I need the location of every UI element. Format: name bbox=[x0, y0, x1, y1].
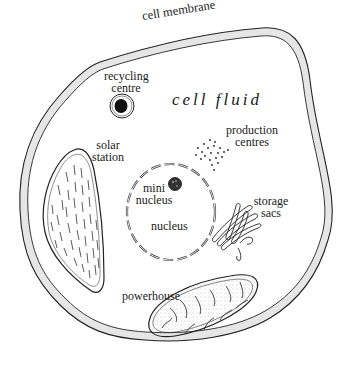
label-production-centres-line2: centres bbox=[222, 136, 282, 148]
label-solar-station-line2: station bbox=[86, 151, 130, 163]
label-mini-nucleus-line2: nucleus bbox=[133, 194, 175, 206]
recycling-centre bbox=[110, 94, 134, 118]
label-solar-station: solar station bbox=[86, 139, 130, 163]
label-storage-sacs-line2: sacs bbox=[251, 207, 291, 219]
label-storage-sacs: storage sacs bbox=[251, 195, 291, 219]
label-cell-fluid: cell fluid bbox=[172, 91, 262, 109]
label-production-centres: production centres bbox=[222, 124, 282, 148]
label-recycling-centre-line2: centre bbox=[104, 82, 148, 94]
label-nucleus: nucleus bbox=[151, 220, 188, 232]
label-recycling-centre: recycling centre bbox=[104, 70, 148, 94]
label-mini-nucleus: mini nucleus bbox=[133, 182, 175, 206]
cell-diagram bbox=[0, 0, 351, 376]
label-powerhouse: powerhouse bbox=[122, 290, 180, 302]
